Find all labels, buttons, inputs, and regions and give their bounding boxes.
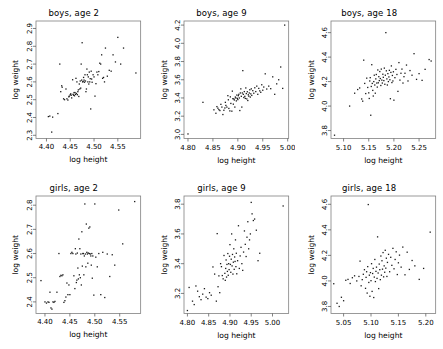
data-point [383, 276, 384, 277]
data-point [103, 77, 104, 78]
data-point [386, 32, 387, 33]
data-point [372, 290, 373, 291]
data-point [367, 265, 368, 266]
data-points [333, 203, 431, 306]
data-point [187, 133, 188, 134]
data-point [388, 253, 389, 254]
data-point [389, 271, 390, 272]
data-point [75, 248, 76, 249]
data-point [229, 263, 230, 264]
data-point [382, 79, 383, 80]
data-points [187, 24, 285, 134]
data-point [362, 101, 363, 102]
data-point [337, 302, 338, 303]
data-point [76, 81, 77, 82]
data-point [81, 79, 82, 80]
data-point [247, 94, 248, 95]
data-point [390, 256, 391, 257]
x-tick-label: 5.05 [336, 318, 352, 326]
x-tick-label: 4.85 [205, 144, 221, 152]
data-point [369, 80, 370, 81]
data-point [380, 279, 381, 280]
data-point [231, 265, 232, 266]
data-point [236, 94, 237, 95]
plot-area: 5.055.105.155.203.84.04.24.44.6log heigh… [295, 175, 443, 349]
x-tick-label: 4.45 [62, 143, 78, 151]
x-tick-label: 5.25 [412, 144, 428, 152]
data-point [389, 70, 390, 71]
data-point [253, 93, 254, 94]
data-point [232, 253, 233, 254]
data-point [77, 91, 78, 92]
data-point [394, 268, 395, 269]
data-point [359, 87, 360, 88]
data-point [90, 253, 91, 254]
data-point [367, 292, 368, 293]
data-point [232, 273, 233, 274]
data-point [107, 76, 108, 77]
data-point [379, 71, 380, 72]
data-point [215, 300, 216, 301]
data-point [239, 255, 240, 256]
plot-area: 5.105.155.205.253.84.04.24.44.6log heigh… [295, 0, 443, 175]
data-point [385, 84, 386, 85]
data-point [409, 268, 410, 269]
data-point [217, 286, 218, 287]
data-point [393, 80, 394, 81]
data-point [392, 264, 393, 265]
data-point [228, 263, 229, 264]
data-point [252, 219, 253, 220]
data-point [402, 246, 403, 247]
panel-boys-age-18: boys, age 185.105.155.205.253.84.04.24.4… [295, 0, 443, 175]
data-point [399, 62, 400, 63]
data-point [376, 270, 377, 271]
data-point [369, 98, 370, 99]
data-point [372, 90, 373, 91]
data-point [120, 63, 121, 64]
x-tick-label: 4.90 [222, 318, 238, 326]
plot-area: 4.404.454.504.552.42.52.62.72.8log heigh… [0, 175, 148, 349]
data-point [237, 95, 238, 96]
data-point [349, 105, 350, 106]
y-tick-label: 2.7 [26, 223, 34, 234]
data-point [246, 98, 247, 99]
x-tick-label: 5.10 [364, 318, 380, 326]
y-tick-label: 2.6 [26, 247, 34, 258]
data-point [100, 63, 101, 64]
data-point [244, 243, 245, 244]
data-point [213, 109, 214, 110]
data-point [197, 290, 198, 291]
data-point [76, 279, 77, 280]
data-point [59, 275, 60, 276]
data-point [354, 93, 355, 94]
data-point [246, 236, 247, 237]
panel-girls-age-18: girls, age 185.055.105.155.203.84.04.24.… [295, 175, 443, 349]
data-point [395, 77, 396, 78]
data-point [227, 95, 228, 96]
data-point [85, 266, 86, 267]
data-point [220, 263, 221, 264]
data-point [245, 255, 246, 256]
data-point [341, 296, 342, 297]
data-point [261, 84, 262, 85]
data-point [397, 74, 398, 75]
x-axis-title: log height [217, 156, 255, 165]
data-point [76, 93, 77, 94]
data-point [425, 69, 426, 70]
y-tick-label: 3.6 [174, 227, 182, 239]
data-point [241, 92, 242, 93]
data-point [78, 89, 79, 90]
y-tick-label: 2.5 [26, 272, 34, 283]
plot-area: 4.404.454.504.552.32.42.52.62.72.82.9log… [0, 0, 148, 175]
data-point [226, 106, 227, 107]
data-point [364, 269, 365, 270]
data-point [62, 87, 63, 88]
y-tick-label: 2.4 [26, 111, 34, 123]
y-tick-label: 2.4 [26, 295, 34, 307]
data-point [404, 76, 405, 77]
data-point [405, 73, 406, 74]
data-point [105, 47, 106, 48]
panel-girls-age-9: girls, age 94.804.854.904.955.003.23.43.… [148, 175, 296, 349]
data-point [242, 269, 243, 270]
data-point [381, 85, 382, 86]
